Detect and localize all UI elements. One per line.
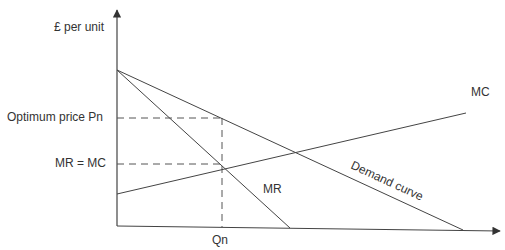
diagram-canvas: Demand curve [0, 0, 505, 250]
qn-label: Qn [212, 234, 228, 246]
mr-label: MR [263, 183, 282, 195]
mc-label: MC [471, 86, 490, 98]
x-axis [117, 226, 500, 231]
demand-curve [117, 70, 463, 230]
y-axis-label: £ per unit [54, 21, 104, 33]
economics-diagram: Demand curve £ per unit Optimum price Pn… [0, 0, 505, 250]
mr-curve [117, 70, 290, 228]
mr-equals-mc-label: MR = MC [55, 157, 106, 169]
optimum-price-label: Optimum price Pn [7, 111, 103, 123]
demand-curve-label: Demand curve [349, 158, 426, 204]
mc-curve [117, 113, 466, 194]
